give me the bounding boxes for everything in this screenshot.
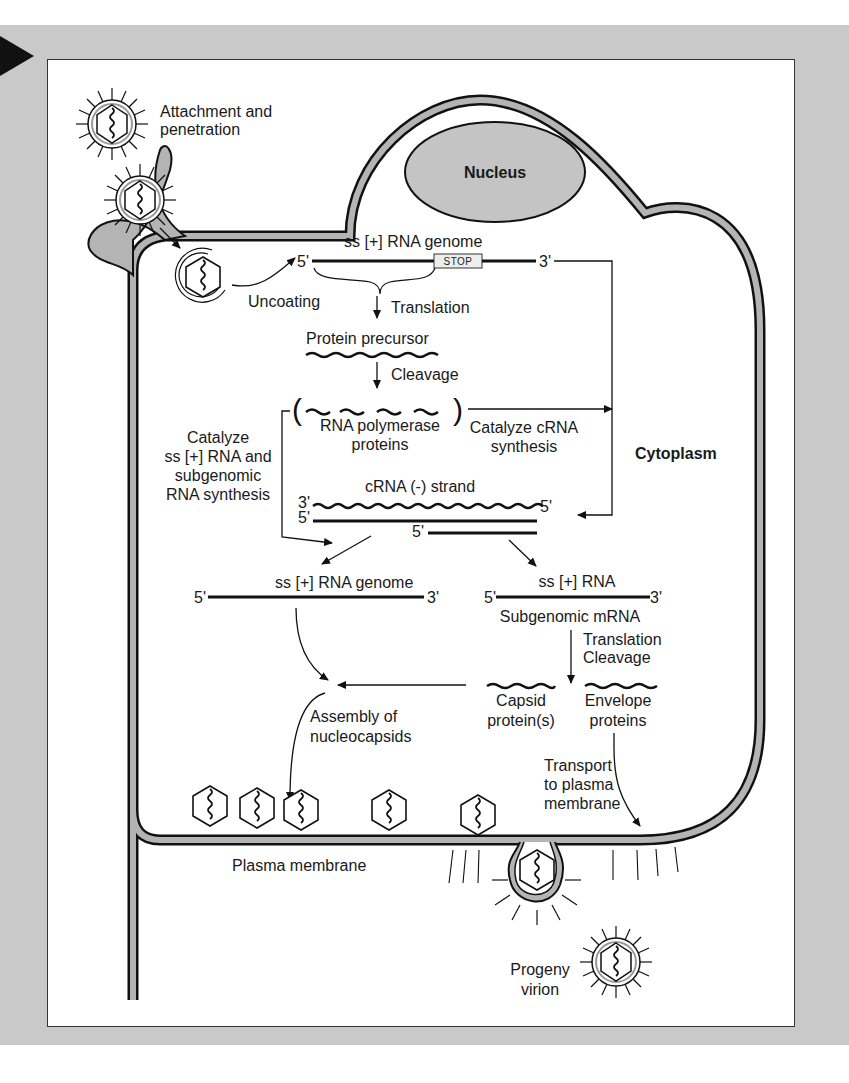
progeny-label-1: Progeny xyxy=(510,961,570,978)
uncoating-capsid-icon xyxy=(175,248,225,302)
stop-codon-label: STOP xyxy=(443,256,472,267)
catalyze-ss-label-3: subgenomic xyxy=(175,467,261,484)
transport-label-2: to plasma xyxy=(544,776,613,793)
ss-rna-3prime: 3' xyxy=(650,589,662,606)
assembly-label-1: Assembly of xyxy=(310,708,398,725)
cleavage-label: Cleavage xyxy=(391,366,459,383)
nucleus-label: Nucleus xyxy=(464,164,526,181)
crna-strand-label: cRNA (-) strand xyxy=(365,478,475,495)
subgenomic-5prime: 5' xyxy=(412,523,424,540)
cytoplasm-label: Cytoplasm xyxy=(635,445,717,462)
plasma-membrane-label: Plasma membrane xyxy=(232,857,366,874)
capsid-label-1: Capsid xyxy=(496,692,546,709)
progeny-virion-icon xyxy=(580,926,652,998)
transport-label-1: Transport xyxy=(544,757,612,774)
subgenomic-mrna-label: Subgenomic mRNA xyxy=(500,608,641,625)
ss-rna-label: ss [+] RNA xyxy=(539,573,616,590)
protein-precursor-label: Protein precursor xyxy=(306,330,429,347)
genome-top-5prime: 5' xyxy=(297,253,309,270)
svg-text:(: ( xyxy=(292,393,302,426)
rna-polymerase-label-2: proteins xyxy=(352,436,409,453)
nucleocapsid-icon xyxy=(284,790,318,830)
ss-rna-5prime: 5' xyxy=(484,589,496,606)
envelope-label-2: proteins xyxy=(590,712,647,729)
nucleocapsids xyxy=(193,786,495,835)
attaching-virion-icon xyxy=(76,88,148,160)
virus-replication-diagram: Nucleus Cytoplasm Attachment and penetra… xyxy=(0,0,849,1083)
crna-5prime: 5' xyxy=(540,498,552,515)
nucleocapsid-icon xyxy=(461,795,495,835)
capsid-label-2: protein(s) xyxy=(487,712,555,729)
catalyze-crna-label-1: Catalyze cRNA xyxy=(470,419,579,436)
genome-top-3prime: 3' xyxy=(539,253,551,270)
attachment-label-1: Attachment and xyxy=(160,103,272,120)
nucleocapsid-icon xyxy=(193,786,227,826)
translation-cleavage-label-2: Cleavage xyxy=(583,649,651,666)
catalyze-ss-label-1: Catalyze xyxy=(187,429,249,446)
catalyze-ss-label-4: RNA synthesis xyxy=(166,486,270,503)
plus-strand-5prime: 5' xyxy=(298,509,310,526)
genome-bottom-label: ss [+] RNA genome xyxy=(275,574,413,591)
envelope-label-1: Envelope xyxy=(585,692,652,709)
attachment-label-2: penetration xyxy=(160,121,240,138)
rna-polymerase-label-1: RNA polymerase xyxy=(320,417,440,434)
translation-label: Translation xyxy=(391,299,470,316)
translation-cleavage-label-1: Translation xyxy=(583,631,662,648)
catalyze-crna-label-2: synthesis xyxy=(491,438,558,455)
genome-top-label: ss [+] RNA genome xyxy=(344,233,482,250)
progeny-label-2: virion xyxy=(521,981,559,998)
catalyze-ss-label-2: ss [+] RNA and xyxy=(164,448,271,465)
budding-site xyxy=(449,842,678,925)
svg-text:): ) xyxy=(453,393,463,426)
uncoating-label: Uncoating xyxy=(248,293,320,310)
genome-bottom-5prime: 5' xyxy=(194,589,206,606)
assembly-label-2: nucleocapsids xyxy=(310,728,411,745)
nucleocapsid-icon xyxy=(372,790,406,830)
transport-label-3: membrane xyxy=(544,795,621,812)
nucleocapsid-icon xyxy=(240,788,274,828)
genome-bottom-3prime: 3' xyxy=(427,589,439,606)
